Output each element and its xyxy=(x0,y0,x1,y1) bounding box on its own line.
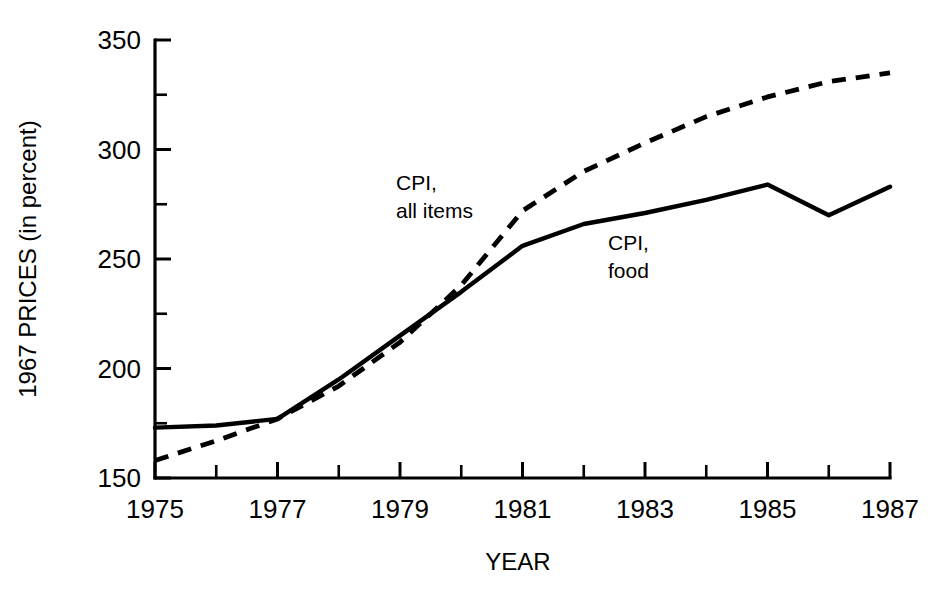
y-tick-label: 300 xyxy=(98,135,141,165)
y-tick-label: 150 xyxy=(98,463,141,493)
annotation-cpi-food-line1: CPI, xyxy=(608,231,649,254)
x-tick-label: 1985 xyxy=(739,494,797,524)
x-tick-label: 1977 xyxy=(249,494,307,524)
x-tick-label: 1987 xyxy=(861,494,919,524)
y-tick-label: 200 xyxy=(98,354,141,384)
annotation-cpi-food-line2: food xyxy=(608,259,649,282)
x-tick-label: 1979 xyxy=(371,494,429,524)
cpi-line-chart: 150200250300350 197519771979198119831985… xyxy=(0,0,932,606)
chart-container: 150200250300350 197519771979198119831985… xyxy=(0,0,932,606)
x-tick-label: 1975 xyxy=(126,494,184,524)
y-axis-title: 1967 PRICES (in percent) xyxy=(14,120,41,397)
x-tick-label: 1983 xyxy=(616,494,674,524)
y-tick-label: 250 xyxy=(98,244,141,274)
x-axis-title: YEAR xyxy=(485,548,550,575)
y-tick-label: 350 xyxy=(98,25,141,55)
annotation-cpi-all-items-line2: all items xyxy=(396,199,473,222)
x-tick-label: 1981 xyxy=(494,494,552,524)
annotation-cpi-all-items-line1: CPI, xyxy=(396,171,437,194)
